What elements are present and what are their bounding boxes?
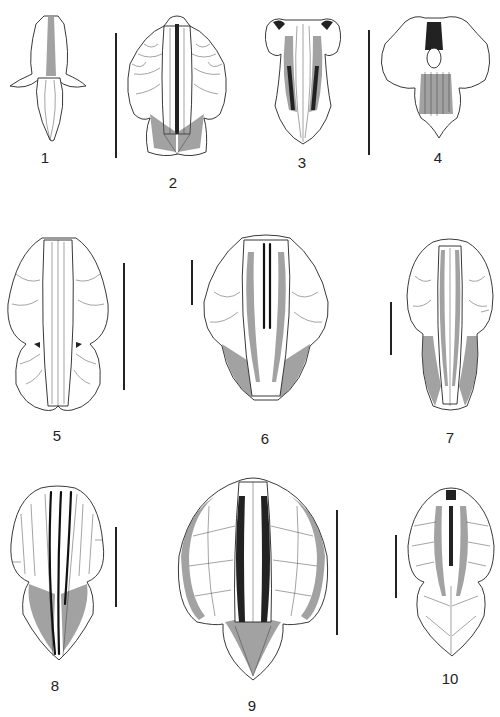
figure-6-drawing — [200, 232, 332, 406]
scale-bar — [123, 263, 125, 390]
figure-7-drawing — [405, 236, 495, 414]
scale-bar — [395, 535, 397, 598]
figure-label: 7 — [446, 430, 454, 445]
scale-bar — [115, 527, 117, 607]
figure-label: 8 — [51, 678, 59, 693]
figure-label: 5 — [53, 428, 61, 443]
figure-label: 1 — [41, 150, 49, 165]
scale-bar — [115, 33, 117, 158]
figure-label: 3 — [298, 155, 306, 170]
figure-4-drawing — [377, 14, 493, 140]
scale-bar — [390, 302, 392, 355]
scale-bar — [191, 260, 193, 305]
figure-2-drawing — [124, 14, 230, 158]
figure-label: 4 — [434, 150, 442, 165]
figure-8-drawing — [7, 484, 107, 662]
figure-5-drawing — [6, 234, 110, 412]
figure-3-drawing — [263, 16, 343, 146]
figure-label: 2 — [169, 175, 177, 190]
scale-bar — [368, 30, 370, 155]
figure-label: 6 — [261, 431, 269, 446]
scale-bar — [336, 510, 338, 635]
figure-1-drawing — [8, 14, 88, 142]
figure-10-drawing — [406, 486, 496, 658]
figure-9-drawing — [175, 476, 331, 682]
figure-label: 10 — [442, 671, 459, 686]
figure-label: 9 — [248, 698, 256, 713]
